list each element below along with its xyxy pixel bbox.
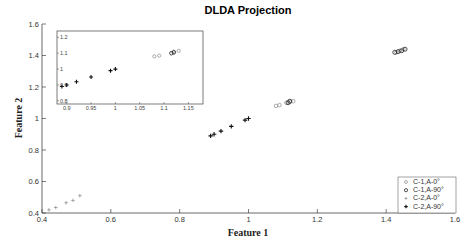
x-tick-label: 0.6 (106, 215, 116, 224)
series-C-1,A-90° (286, 47, 407, 105)
legend-item-label: C-2,A-90° (413, 203, 444, 210)
y-tick-label: 0.4 (29, 209, 39, 218)
inset-x-tick-label: 0.9 (63, 105, 71, 111)
inset-y-tick-label: 1.2 (60, 34, 68, 40)
x-axis-label: Feature 1 (228, 227, 269, 238)
x-tick-label: 1.6 (450, 215, 460, 224)
inset-x-tick-label: 0.95 (86, 105, 97, 111)
x-tick-label: 0.8 (174, 215, 184, 224)
chart-title: DLDA Projection (205, 4, 292, 16)
x-tick-label: 1.4 (381, 215, 391, 224)
y-tick-label: 0.8 (29, 146, 39, 155)
y-tick-label: 1 (35, 114, 39, 123)
inset-y-tick-label: 0.8 (60, 98, 68, 104)
y-tick-label: 0.6 (29, 177, 39, 186)
y-tick-label: 1.4 (29, 51, 39, 60)
series-C-2,A-0° (47, 194, 82, 212)
inset-y-tick-label: 1.1 (60, 50, 68, 56)
inset-x-tick-label: 1 (114, 105, 117, 111)
inset-x-tick-label: 1.15 (183, 105, 194, 111)
inset-x-tick-label: 1.1 (160, 105, 168, 111)
legend: C-1,A-0°C-1,A-90°C-2,A-0°C-2,A-90° (398, 177, 456, 213)
legend-item-label: C-1,A-0° (413, 178, 440, 185)
y-axis-label: Feature 2 (13, 98, 24, 139)
y-tick-label: 1.6 (29, 20, 39, 29)
series-C-2,A-90° (208, 116, 250, 138)
y-axis-ticks: 0.40.60.811.21.41.6 (29, 20, 46, 218)
inset-x-tick-label: 1.05 (134, 105, 145, 111)
y-tick-label: 1.2 (29, 83, 39, 92)
legend-item-label: C-1,A-90° (413, 186, 444, 193)
x-tick-label: 1 (246, 215, 250, 224)
legend-item-label: C-2,A-0° (413, 194, 440, 201)
x-axis-ticks: 0.40.60.811.21.41.6 (37, 209, 460, 224)
x-tick-label: 1.2 (312, 215, 322, 224)
series-C-1,A-0° (274, 47, 405, 107)
inset-plot: 0.90.9511.051.11.15 0.80.911.11.2 (57, 31, 203, 111)
inset-y-tick-label: 1 (60, 66, 63, 72)
dlda-scatter-chart: DLDA Projection 0.40.60.811.21.41.6 0.40… (0, 0, 476, 248)
